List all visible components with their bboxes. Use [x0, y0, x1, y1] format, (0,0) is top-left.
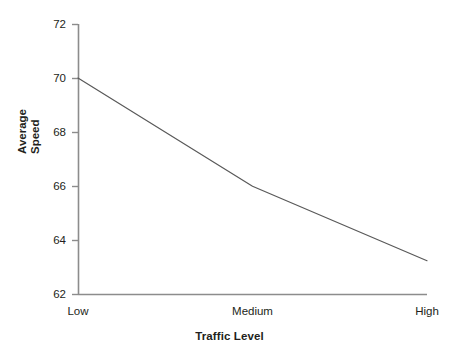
y-tick-label-66: 66 — [34, 180, 66, 192]
y-axis-title: Average Speed — [16, 124, 42, 154]
x-axis-title: Traffic Level — [0, 330, 459, 342]
data-series-line — [78, 78, 427, 261]
y-tick-label-70: 70 — [34, 72, 66, 84]
x-tick-label-high: High — [407, 305, 447, 317]
x-tick-label-medium: Medium — [222, 305, 283, 317]
y-axis-title-line2: Speed — [29, 124, 42, 154]
y-tick-label-64: 64 — [34, 234, 66, 246]
y-tick-label-72: 72 — [34, 18, 66, 30]
x-tick-label-low: Low — [58, 305, 98, 317]
chart-container: 72 70 68 66 64 62 Low Medium High Averag… — [0, 0, 459, 351]
y-axis-title-line1: Average — [16, 124, 29, 154]
y-tick-label-62: 62 — [34, 288, 66, 300]
plot-area — [0, 0, 459, 351]
